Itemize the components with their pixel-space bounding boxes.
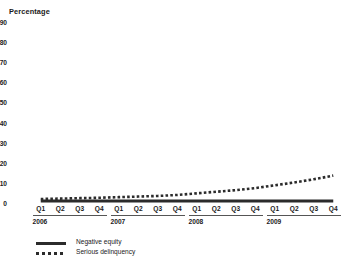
y-tick-label: 30: [0, 139, 7, 146]
y-tick-label: 90: [0, 19, 7, 26]
y-tick-label: 0: [3, 200, 7, 207]
y-tick-label: 40: [0, 119, 7, 126]
y-tick-label: 80: [0, 39, 7, 46]
x-tick-label-quarter: Q3: [231, 205, 240, 212]
year-group-rule: [33, 215, 108, 216]
x-axis-year-label: 2006: [33, 218, 48, 225]
x-axis-year-label: 2007: [111, 218, 126, 225]
y-tick-label: 20: [0, 159, 7, 166]
x-tick-label-quarter: Q2: [212, 205, 221, 212]
x-axis-year-label: 2008: [189, 218, 204, 225]
legend-swatch-solid-line-icon: [36, 242, 66, 245]
x-tick-label-quarter: Q1: [270, 205, 279, 212]
x-tick-label-quarter: Q4: [329, 205, 338, 212]
x-tick-label-quarter: Q2: [56, 205, 65, 212]
x-tick-label-quarter: Q1: [36, 205, 45, 212]
x-axis: Q1Q2Q3Q42006Q1Q2Q3Q42007Q1Q2Q3Q42008Q1Q2…: [31, 203, 343, 239]
x-tick-label-quarter: Q3: [75, 205, 84, 212]
year-group-rule: [111, 215, 186, 216]
legend: Negative equitySerious delinquency: [36, 238, 236, 258]
y-tick-label: 60: [0, 79, 7, 86]
legend-label: Negative equity: [76, 238, 121, 245]
y-tick-label: 50: [0, 99, 7, 106]
year-group-rule: [189, 215, 264, 216]
series-canvas: [31, 22, 343, 203]
x-tick-label-quarter: Q2: [290, 205, 299, 212]
legend-swatch-dotted-line-icon: [36, 252, 66, 255]
x-tick-label-quarter: Q4: [173, 205, 182, 212]
legend-label: Serious delinquency: [76, 248, 135, 255]
series-line-2: [41, 176, 334, 199]
year-group-rule: [267, 215, 342, 216]
chart-figure: Percentage 0102030405060708090 Q1Q2Q3Q42…: [0, 0, 345, 261]
x-tick-label-quarter: Q1: [114, 205, 123, 212]
plot-area: [31, 22, 343, 203]
legend-item: Serious delinquency: [36, 248, 236, 258]
legend-item: Negative equity: [36, 238, 236, 248]
x-axis-year-label: 2009: [267, 218, 282, 225]
y-tick-label: 70: [0, 59, 7, 66]
y-axis-tick-labels: 0102030405060708090: [0, 0, 28, 261]
x-tick-label-quarter: Q2: [134, 205, 143, 212]
x-tick-label-quarter: Q3: [153, 205, 162, 212]
x-tick-label-quarter: Q1: [192, 205, 201, 212]
y-tick-label: 10: [0, 179, 7, 186]
x-tick-label-quarter: Q4: [251, 205, 260, 212]
x-tick-label-quarter: Q3: [309, 205, 318, 212]
x-tick-label-quarter: Q4: [95, 205, 104, 212]
